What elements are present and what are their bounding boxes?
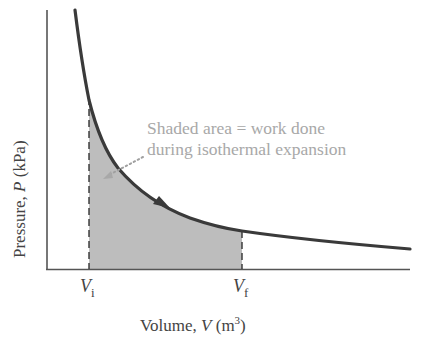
y-axis-variable: P xyxy=(10,182,29,192)
y-axis-unit: (kPa) xyxy=(10,140,29,181)
x-axis-variable: V xyxy=(201,316,211,335)
x-axis-label-text: Volume, xyxy=(140,316,201,335)
tick-vf: Vf xyxy=(233,276,248,301)
y-axis-label-text: Pressure, xyxy=(10,192,29,258)
x-axis-label: Volume, V (m3) xyxy=(140,314,246,336)
tick-vi: Vi xyxy=(80,276,95,301)
work-annotation: Shaded area = work done during isotherma… xyxy=(147,118,346,160)
x-axis-unit-close: ) xyxy=(240,316,246,335)
x-axis-unit-open: (m xyxy=(211,316,234,335)
tick-vi-var: V xyxy=(80,276,91,296)
annotation-line-1: Shaded area = work done xyxy=(147,118,346,139)
tick-vf-var: V xyxy=(233,276,244,296)
tick-vi-sub: i xyxy=(91,285,95,300)
tick-vf-sub: f xyxy=(244,285,248,300)
y-axis-label: Pressure, P (kPa) xyxy=(10,140,30,258)
pv-diagram xyxy=(0,0,433,352)
annotation-line-2: during isothermal expansion xyxy=(147,139,346,160)
